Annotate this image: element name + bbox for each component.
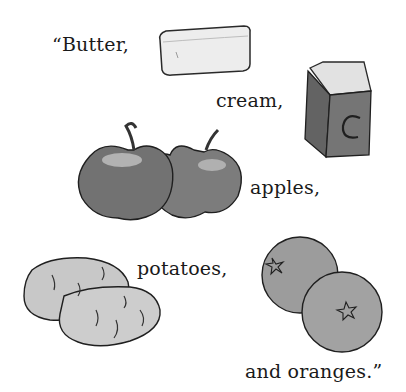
word-potatoes: potatoes, bbox=[137, 257, 227, 279]
word-oranges: and oranges.” bbox=[245, 360, 382, 382]
illustration-canvas bbox=[0, 0, 406, 392]
word-apples: apples, bbox=[250, 176, 320, 198]
word-cream: cream, bbox=[216, 89, 284, 111]
apples-icon bbox=[78, 123, 241, 219]
butter-icon bbox=[160, 26, 251, 75]
oranges-icon bbox=[262, 237, 382, 352]
cream-carton-icon bbox=[305, 62, 371, 157]
word-butter: “Butter, bbox=[52, 33, 129, 55]
